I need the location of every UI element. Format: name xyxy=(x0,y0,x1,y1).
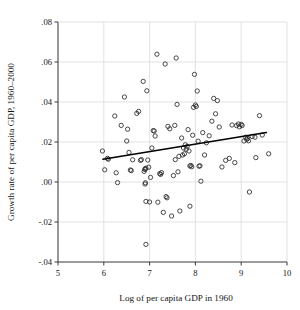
y-axis-tick-labels: -.04-.02.00.02.04.06.08 xyxy=(38,17,52,267)
data-point xyxy=(192,72,196,76)
data-point xyxy=(115,180,119,184)
data-point xyxy=(210,119,214,123)
data-point xyxy=(141,79,145,83)
data-point xyxy=(173,123,177,127)
scatter-plot-figure: -.04-.02.00.02.04.06.08 5678910 Log of p… xyxy=(0,0,300,310)
data-point xyxy=(163,62,167,66)
data-point xyxy=(153,134,157,138)
data-point xyxy=(144,242,148,246)
data-point xyxy=(217,125,221,129)
chart-canvas: -.04-.02.00.02.04.06.08 5678910 Log of p… xyxy=(0,0,300,310)
data-point xyxy=(171,173,175,177)
data-point xyxy=(114,171,118,175)
y-tick-label: .08 xyxy=(41,17,52,27)
data-point xyxy=(145,89,149,93)
data-point xyxy=(233,160,237,164)
x-tick-label: 10 xyxy=(283,268,292,278)
x-axis-tick-labels: 5678910 xyxy=(56,268,291,278)
x-tick-label: 6 xyxy=(102,268,107,278)
data-point xyxy=(165,196,169,200)
data-point xyxy=(176,170,180,174)
data-point xyxy=(257,113,261,117)
data-point xyxy=(125,139,129,143)
data-point xyxy=(191,133,195,137)
data-point xyxy=(161,210,165,214)
data-point xyxy=(213,112,217,116)
x-tick-label: 9 xyxy=(239,268,243,278)
data-point xyxy=(127,150,131,154)
data-point xyxy=(122,95,126,99)
data-point xyxy=(178,209,182,213)
x-tick-label: 7 xyxy=(147,268,152,278)
data-point xyxy=(119,123,123,127)
data-point xyxy=(175,102,179,106)
y-tick-label: -.04 xyxy=(38,257,52,267)
data-point xyxy=(188,204,192,208)
data-point xyxy=(148,175,152,179)
data-point xyxy=(201,130,205,134)
data-point xyxy=(103,168,107,172)
data-point xyxy=(125,127,129,131)
data-point xyxy=(113,114,117,118)
data-point xyxy=(207,134,211,138)
data-point xyxy=(169,214,173,218)
y-tick-label: -.02 xyxy=(38,217,52,227)
y-tick-label: .00 xyxy=(41,177,52,187)
data-points xyxy=(100,52,271,247)
data-point xyxy=(131,158,135,162)
data-point xyxy=(174,56,178,60)
y-tick-label: .04 xyxy=(41,97,52,107)
data-point xyxy=(247,190,251,194)
data-point xyxy=(230,123,234,127)
data-point xyxy=(227,156,231,160)
data-point xyxy=(186,127,190,131)
data-point xyxy=(220,165,224,169)
data-point xyxy=(147,165,151,169)
tick-marks xyxy=(55,22,288,266)
x-tick-label: 5 xyxy=(56,268,60,278)
data-point xyxy=(202,153,206,157)
y-tick-label: .06 xyxy=(41,57,52,67)
y-tick-label: .02 xyxy=(41,137,52,147)
x-tick-label: 8 xyxy=(193,268,197,278)
data-point xyxy=(150,146,154,150)
data-point xyxy=(180,136,184,140)
data-point xyxy=(199,179,203,183)
data-point xyxy=(155,52,159,56)
y-axis-title: Growth rate of per capita GDP, 1960–2000 xyxy=(6,63,16,221)
data-point xyxy=(267,152,271,156)
data-point xyxy=(173,157,177,161)
data-point xyxy=(194,104,198,108)
grid-lines xyxy=(58,22,287,262)
x-axis-title: Log of per capita GDP in 1960 xyxy=(119,293,233,303)
data-point xyxy=(254,155,258,159)
data-point xyxy=(253,135,257,139)
data-point xyxy=(156,200,160,204)
